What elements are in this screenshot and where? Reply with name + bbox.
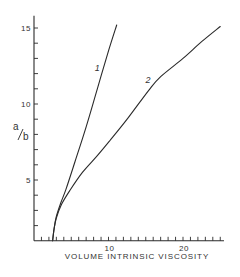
y-ticks [34, 28, 38, 226]
x-ticks [41, 237, 220, 241]
y-label-denominator: b [23, 131, 29, 142]
curve-label-1: 1 [95, 63, 100, 73]
curve-label-2: 2 [144, 75, 150, 85]
curves [53, 25, 221, 241]
curve-1 [53, 25, 117, 241]
curve-2 [53, 26, 221, 240]
chart: 51015 1020 12 VOLUME INTRINSIC VISCOSITY… [0, 0, 240, 277]
curve-labels: 12 [95, 63, 151, 85]
plot-area: 51015 1020 12 [21, 16, 224, 253]
y-tick-labels: 51015 [21, 24, 31, 185]
y-axis-title: ab [13, 121, 29, 142]
y-label-numerator: a [13, 121, 19, 132]
y-tick-label: 10 [21, 100, 31, 109]
y-tick-label: 15 [21, 24, 31, 33]
x-axis-title: VOLUME INTRINSIC VISCOSITY [65, 252, 209, 261]
y-tick-label: 5 [26, 176, 31, 185]
